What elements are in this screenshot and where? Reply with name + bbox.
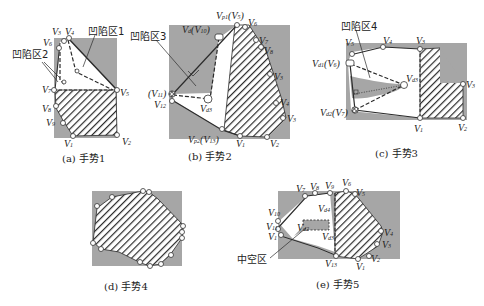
- caption-d: (d) 手势4: [104, 280, 148, 292]
- svg-text:V7: V7: [296, 183, 306, 194]
- annotation-concave-3: 凹陷区3: [130, 30, 166, 42]
- svg-text:Vd(V10): Vd(V10): [182, 24, 211, 36]
- panel-c: 凹陷区4 V5 V4 V3 Vd1(V6) Vd3 Vd2(V7) V1 V2 …: [312, 20, 475, 159]
- svg-text:V8: V8: [42, 103, 51, 114]
- svg-text:V3: V3: [466, 79, 475, 90]
- panel-e: 中空区 V7 V8 V9 V6 V5 V10 V11 V1 Vd4 Vd2 Vd…: [237, 177, 400, 290]
- gesture-diagram: 凹陷区1 凹陷区2 V3 V4 V6 V7 V5 V8 V9 V1 V2 (a)…: [0, 0, 484, 306]
- svg-text:V6: V6: [43, 37, 52, 48]
- panel-d: (d) 手势4: [91, 189, 186, 293]
- svg-text:V3: V3: [287, 113, 296, 124]
- svg-text:V9: V9: [325, 180, 334, 191]
- svg-text:V7: V7: [42, 84, 52, 95]
- svg-text:V13: V13: [325, 258, 337, 269]
- caption-b: (b) 手势2: [188, 150, 232, 162]
- panel-a: 凹陷区1 凹陷区2 V3 V4 V6 V7 V5 V8 V9 V1 V2 (a)…: [12, 25, 131, 164]
- svg-text:Vd1(V6): Vd1(V6): [312, 58, 341, 70]
- svg-text:V1: V1: [236, 138, 245, 149]
- svg-text:V12: V12: [154, 99, 166, 110]
- svg-text:V2: V2: [458, 122, 467, 133]
- svg-text:V1: V1: [414, 123, 423, 134]
- svg-text:Vp2(V13): Vp2(V13): [188, 134, 220, 146]
- caption-c: (c) 手势3: [375, 147, 418, 159]
- annotation-hollow: 中空区: [237, 253, 267, 265]
- annotation-concave-2: 凹陷区2: [12, 48, 48, 60]
- svg-text:V3: V3: [416, 35, 425, 46]
- svg-text:V8: V8: [310, 181, 319, 192]
- annotation-concave-4: 凹陷区4: [341, 20, 377, 32]
- svg-text:V4: V4: [65, 26, 74, 37]
- svg-text:V2: V2: [270, 138, 279, 149]
- svg-text:V4: V4: [383, 35, 392, 46]
- annotation-concave-1: 凹陷区1: [88, 25, 124, 37]
- caption-a: (a) 手势1: [62, 152, 105, 164]
- svg-text:V3: V3: [52, 26, 61, 37]
- svg-text:V6: V6: [248, 17, 257, 28]
- svg-text:Vp1(V5): Vp1(V5): [216, 10, 245, 22]
- svg-text:V2: V2: [122, 136, 131, 147]
- caption-e: (e) 手势5: [316, 278, 359, 290]
- svg-text:V1: V1: [356, 261, 365, 272]
- svg-text:V6: V6: [342, 177, 351, 188]
- svg-text:V5: V5: [345, 37, 354, 48]
- svg-text:Vd2(V7): Vd2(V7): [320, 107, 349, 119]
- svg-text:V9: V9: [46, 117, 55, 128]
- svg-text:V5: V5: [356, 187, 365, 198]
- svg-text:V1: V1: [64, 138, 73, 149]
- panel-b: 凹陷区3 Vp1(V5) V6 Vd(V10) V7 V8 V3 V4 V3 (…: [130, 10, 296, 162]
- svg-text:V5: V5: [120, 87, 129, 98]
- svg-text:V1: V1: [268, 231, 277, 242]
